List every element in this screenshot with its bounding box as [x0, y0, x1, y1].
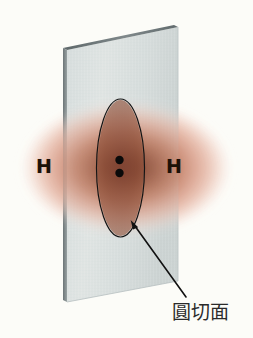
atom-label-right-hydrogen: H	[166, 157, 182, 176]
cross-section-core-fill	[98, 100, 144, 236]
electron-dot-upper	[115, 156, 123, 164]
electron-dot-lower	[115, 169, 123, 177]
atom-label-left-hydrogen: H	[36, 157, 52, 176]
leader-line	[134, 224, 187, 297]
caption-leader-arrow	[131, 220, 186, 297]
diagram-canvas: H H 圓切面	[0, 0, 253, 338]
cross-section-caption: 圓切面	[172, 303, 229, 322]
